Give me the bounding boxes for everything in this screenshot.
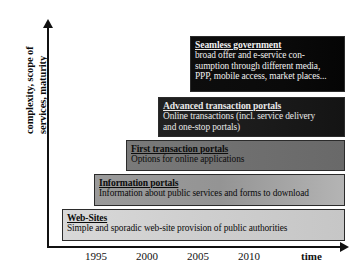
- x-tick-label-2005: 2005: [178, 250, 218, 262]
- x-tick-label-2010: 2010: [229, 250, 269, 262]
- stage-bar-web-sites[interactable]: Web-Sites Simple and sporadic web-site p…: [62, 209, 345, 241]
- stage-desc-seamless-government-line2: sumption through different media,: [195, 61, 344, 72]
- stage-desc-web-sites-line1: Simple and sporadic web-site provision o…: [67, 223, 344, 234]
- stage-bar-first-transaction-portals[interactable]: First transaction portals Options for on…: [126, 140, 345, 171]
- stage-desc-information-portals-line1: Information about public services and fo…: [99, 188, 344, 199]
- x-tick-label-1995: 1995: [76, 250, 116, 262]
- y-axis-label-line1: complexity, scope of: [24, 46, 35, 134]
- x-axis-line: [47, 246, 343, 248]
- maturity-staircase-chart: complexity, scope of services, maturity …: [0, 0, 362, 276]
- stage-bar-advanced-transaction-portals[interactable]: Advanced transaction portals Online tran…: [158, 97, 345, 137]
- stage-bar-seamless-government[interactable]: Seamless government broad offer and e-se…: [190, 36, 345, 92]
- y-axis-label-line2: services, maturity: [37, 56, 48, 134]
- stage-title-seamless-government: Seamless government: [195, 39, 344, 50]
- x-axis-label-time: time: [301, 250, 322, 262]
- stage-desc-advanced-transaction-portals-line2: and one-stop portals): [163, 122, 344, 133]
- stage-desc-advanced-transaction-portals-line1: Online transactions (incl. service deliv…: [163, 111, 344, 122]
- stage-title-first-transaction-portals: First transaction portals: [131, 143, 344, 154]
- stage-title-information-portals: Information portals: [99, 177, 344, 188]
- y-axis-label: complexity, scope of services, maturity: [0, 0, 46, 150]
- stage-desc-seamless-government-line3: PPP, mobile access, market places...: [195, 71, 344, 82]
- stage-title-advanced-transaction-portals: Advanced transaction portals: [163, 100, 344, 111]
- stage-desc-first-transaction-portals-line1: Options for online applications: [131, 154, 344, 165]
- stage-title-web-sites: Web-Sites: [67, 212, 344, 223]
- x-tick-label-2000: 2000: [127, 250, 167, 262]
- x-axis-arrowhead-icon: [340, 242, 349, 252]
- stage-desc-seamless-government-line1: broad offer and e-service con-: [195, 50, 344, 61]
- stage-bar-information-portals[interactable]: Information portals Information about pu…: [94, 174, 345, 206]
